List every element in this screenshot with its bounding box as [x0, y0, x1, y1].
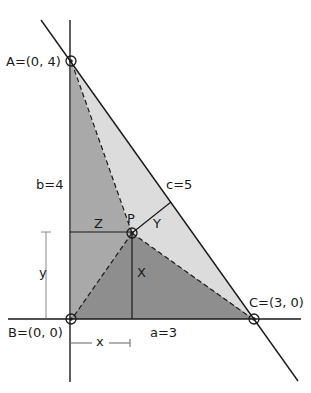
label-side-b: b=4	[36, 178, 63, 191]
label-point-p: P	[127, 212, 135, 225]
label-distance-x: X	[137, 266, 146, 279]
label-distance-z: Z	[94, 217, 103, 230]
label-coordinate-y: y	[39, 266, 47, 279]
label-distance-y: Y	[153, 217, 161, 230]
label-side-a: a=3	[150, 326, 177, 339]
label-coordinate-x: x	[96, 335, 104, 348]
label-side-c: c=5	[166, 178, 192, 191]
label-point-b: B=(0, 0)	[8, 326, 63, 339]
label-point-a: A=(0, 4)	[6, 55, 61, 68]
label-point-c: C=(3, 0)	[249, 296, 304, 309]
